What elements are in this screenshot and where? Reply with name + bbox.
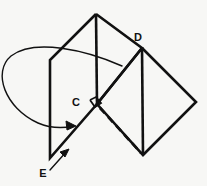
vertex-label-e: E [39, 167, 46, 179]
right-rhombus-outline [97, 48, 196, 155]
edge-pointer-arrowhead [60, 149, 69, 157]
right-plane-center-edge [142, 48, 143, 155]
vertex-label-c: C [72, 96, 80, 108]
geometry-figure: D C E [0, 0, 207, 186]
figure-canvas: D C E [0, 0, 207, 186]
curved-rotation-arrow [2, 47, 122, 128]
vertex-label-d: D [134, 31, 142, 43]
left-plane-center-edge [96, 14, 97, 104]
